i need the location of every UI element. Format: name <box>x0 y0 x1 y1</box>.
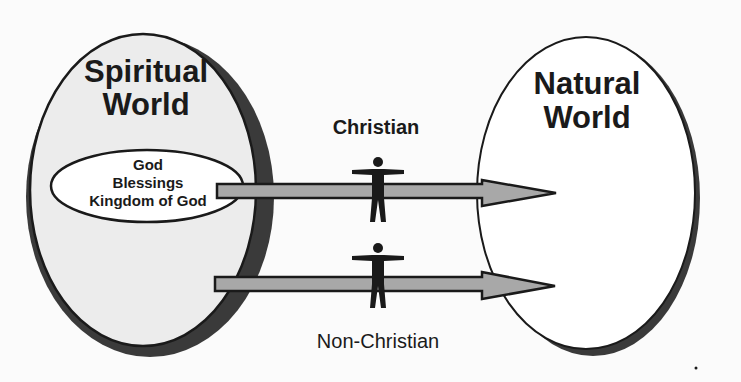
speck-mark <box>695 367 698 370</box>
non-christian-label: Non-Christian <box>317 330 439 352</box>
non-christian-arrow <box>215 272 555 299</box>
christian-label: Christian <box>333 116 420 138</box>
natural-world-title-line1: Natural <box>534 66 641 101</box>
natural-world-title-line2: World <box>543 100 630 135</box>
spiritual-world-title-line2: World <box>102 87 189 122</box>
person-icon <box>352 243 404 308</box>
spiritual-world-title-line1: Spiritual <box>84 54 208 89</box>
kingdom-text-god: God <box>133 156 163 173</box>
kingdom-text-kingdom: Kingdom of God <box>89 192 206 209</box>
diagram-canvas: Spiritual World God Blessings Kingdom of… <box>0 0 741 382</box>
kingdom-text-blessings: Blessings <box>113 174 184 191</box>
